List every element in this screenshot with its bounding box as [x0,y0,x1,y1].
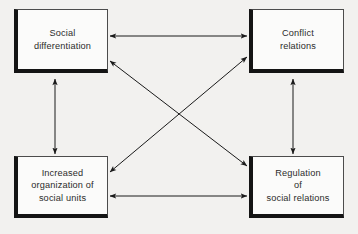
node-label: Conflict relations [276,27,320,52]
node-conflict-relations: Conflict relations [249,9,344,73]
edge-diagonal-bl-tr [110,57,247,172]
node-increased-organization: Increased organization of social units [14,156,108,218]
node-label: Regulation of social relations [262,167,333,204]
edge-diagonal-tl-br [110,61,247,166]
node-label: Increased organization of social units [27,167,98,204]
node-social-differentiation: Social differentiation [14,9,108,73]
node-label: Social differentiation [30,27,95,52]
node-regulation: Regulation of social relations [249,156,344,218]
diagram-canvas: Social differentiation Conflict relation… [0,0,358,234]
